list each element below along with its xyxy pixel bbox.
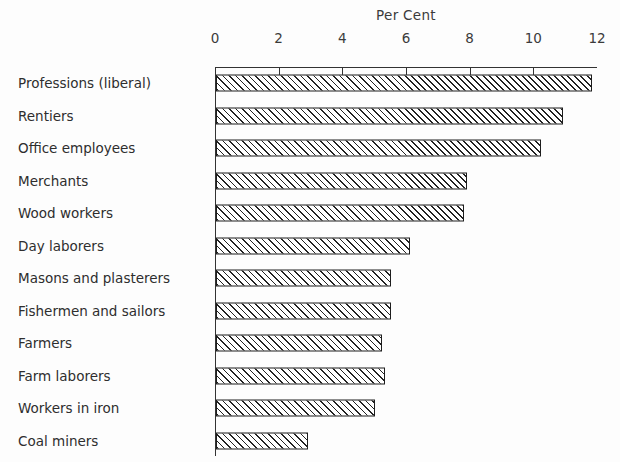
x-tick-label-4: 4 [338,30,347,46]
bar-rect [216,107,563,124]
bar-category-label: Rentiers [18,108,74,124]
x-tick-mark-2 [279,68,280,75]
bar-category-label: Office employees [18,140,135,156]
bar-row: Rentiers [0,100,620,133]
bar-category-label: Farmers [18,335,72,351]
bar-category-label: Day laborers [18,238,104,254]
bar-category-label: Professions (liberal) [18,75,151,91]
chart-page: Per Cent 024681012 Professions (liberal)… [0,0,620,462]
bar-category-label: Masons and plasterers [18,270,170,286]
bar-category-label: Wood workers [18,205,113,221]
chart-title: Per Cent [215,7,597,23]
bar-rect [216,302,391,319]
bar-rect [216,270,391,287]
bar-rect [216,400,375,417]
bar-row: Masons and plasterers [0,262,620,295]
bar-rect [216,432,308,449]
bar-row: Fishermen and sailors [0,295,620,328]
x-tick-mark-6 [406,68,407,75]
x-tick-label-2: 2 [274,30,283,46]
bar-category-label: Merchants [18,173,88,189]
bar-row: Workers in iron [0,392,620,425]
bar-rect [216,205,464,222]
bar-rect [216,367,385,384]
x-tick-mark-8 [470,68,471,75]
bar-category-label: Workers in iron [18,400,119,416]
x-axis-tick-labels: 024681012 [0,30,620,50]
bar-row: Day laborers [0,230,620,263]
bar-rect [216,335,382,352]
plot-area: Professions (liberal)RentiersOffice empl… [0,67,620,457]
bar-rect [216,140,541,157]
x-tick-mark-10 [533,68,534,75]
bar-row: Merchants [0,165,620,198]
bar-row: Wood workers [0,197,620,230]
bar-row: Farmers [0,327,620,360]
bar-category-label: Farm laborers [18,368,111,384]
x-tick-label-10: 10 [525,30,542,46]
x-tick-mark-4 [342,68,343,75]
bar-rect [216,75,592,92]
bar-row: Coal miners [0,425,620,458]
bar-row: Professions (liberal) [0,67,620,100]
bar-row: Farm laborers [0,360,620,393]
bar-category-label: Coal miners [18,433,98,449]
x-tick-label-8: 8 [465,30,474,46]
x-tick-label-0: 0 [211,30,220,46]
bar-category-label: Fishermen and sailors [18,303,165,319]
x-tick-label-12: 12 [588,30,605,46]
bar-rect [216,237,410,254]
bar-rect [216,172,467,189]
x-tick-label-6: 6 [402,30,411,46]
bar-row: Office employees [0,132,620,165]
